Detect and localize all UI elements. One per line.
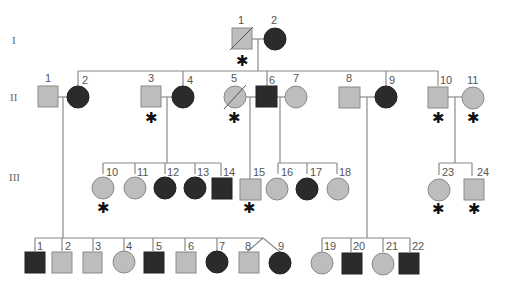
svg-text:4: 4 [187, 74, 193, 86]
svg-text:2: 2 [271, 14, 277, 26]
individual-II-1: 1 [38, 72, 58, 107]
svg-text:6: 6 [269, 74, 275, 86]
individual-III-21: 21 [372, 240, 398, 275]
individual-III-10: 10 ✱ [92, 166, 118, 217]
individual-III-22: 22 [399, 240, 424, 274]
svg-text:5: 5 [231, 72, 237, 84]
connector-lines [35, 39, 472, 252]
svg-text:11: 11 [467, 74, 478, 86]
svg-text:9: 9 [278, 240, 284, 252]
svg-text:18: 18 [339, 166, 351, 178]
individual-III-12: 12 [154, 166, 179, 199]
pedigree-svg: I II III [0, 0, 506, 284]
asterisk-icon: ✱ [145, 109, 158, 127]
svg-text:9: 9 [389, 74, 395, 86]
individual-II-8: 8 [339, 72, 360, 108]
svg-text:1: 1 [37, 240, 43, 252]
svg-text:23: 23 [442, 166, 454, 178]
individual-III-13: 13 [184, 166, 209, 199]
svg-text:19: 19 [324, 240, 336, 252]
individual-III-8: 8 [239, 240, 259, 273]
svg-text:21: 21 [386, 240, 398, 252]
individual-II-7: 7 [285, 72, 307, 108]
individual-III-20: 20 [342, 240, 365, 274]
svg-text:13: 13 [197, 166, 209, 178]
individual-III-11: 11 [124, 166, 148, 199]
individual-III-14: 14 [212, 166, 235, 199]
asterisk-icon: ✱ [432, 200, 445, 218]
svg-text:1: 1 [238, 14, 244, 26]
svg-text:5: 5 [156, 240, 162, 252]
svg-text:22: 22 [412, 240, 424, 252]
individual-II-11: 11 ✱ [462, 74, 484, 127]
svg-text:10: 10 [106, 166, 118, 178]
individual-III-5: 5 [144, 240, 164, 273]
individual-III-15: 15 ✱ [240, 166, 265, 217]
asterisk-icon: ✱ [432, 109, 445, 127]
individual-III-17: 17 [296, 166, 322, 200]
individual-I-2: 2 [264, 14, 286, 50]
individual-I-1: 1 ✱ [230, 14, 253, 70]
svg-text:16: 16 [281, 166, 293, 178]
individual-II-3: 3 ✱ [141, 72, 161, 127]
asterisk-icon: ✱ [467, 109, 480, 127]
svg-text:8: 8 [346, 72, 352, 84]
asterisk-icon: ✱ [228, 109, 241, 127]
asterisk-icon: ✱ [97, 199, 110, 217]
individual-II-5: 5 ✱ [224, 72, 246, 127]
svg-text:2: 2 [82, 74, 88, 86]
svg-text:2: 2 [65, 240, 71, 252]
asterisk-icon: ✱ [468, 200, 481, 218]
asterisk-icon: ✱ [236, 52, 249, 70]
asterisk-icon: ✱ [243, 199, 256, 217]
svg-text:14: 14 [223, 166, 235, 178]
individual-III-16: 16 [266, 166, 293, 200]
individual-II-10: 10 ✱ [428, 74, 452, 127]
individual-III-18: 18 [327, 166, 351, 200]
svg-text:6: 6 [188, 240, 194, 252]
svg-text:4: 4 [126, 240, 132, 252]
generation-label-I: I [12, 34, 16, 46]
generation-label-II: II [10, 91, 18, 103]
svg-text:10: 10 [440, 74, 452, 86]
svg-text:1: 1 [45, 72, 51, 84]
individual-III-24: 24 ✱ [464, 166, 489, 218]
pedigree-chart: I II III [0, 0, 506, 284]
svg-text:20: 20 [353, 240, 365, 252]
svg-text:3: 3 [95, 240, 101, 252]
svg-text:3: 3 [148, 72, 154, 84]
svg-text:11: 11 [137, 166, 148, 178]
svg-text:8: 8 [245, 240, 251, 252]
individual-III-23: 23 ✱ [428, 166, 454, 218]
svg-text:24: 24 [477, 166, 489, 178]
svg-text:17: 17 [310, 166, 322, 178]
individual-III-6: 6 [176, 240, 196, 273]
generation-label-III: III [9, 171, 20, 183]
svg-text:12: 12 [167, 166, 179, 178]
svg-text:15: 15 [253, 166, 265, 178]
svg-text:7: 7 [219, 240, 225, 252]
svg-text:7: 7 [293, 72, 299, 84]
individual-III-19: 19 [311, 240, 336, 274]
